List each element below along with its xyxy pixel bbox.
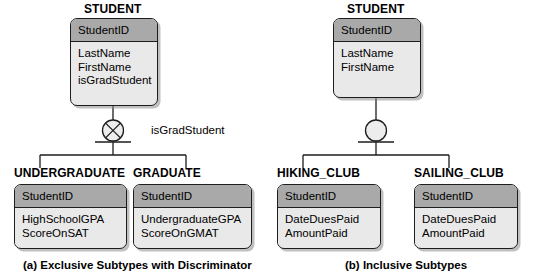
entity-attribute-list: HighSchoolGPA ScoreOnSAT [15,208,126,244]
entity-attribute: LastName [341,47,413,61]
entity-graduate[interactable]: StudentID UndergraduateGPA ScoreOnGMAT [133,184,252,249]
entity-student-b[interactable]: StudentID LastName FirstName [333,18,421,98]
inclusive-circle-b [366,120,387,141]
entity-attribute: ScoreOnGMAT [141,227,244,241]
entity-attribute-list: LastName FirstName isGradStudent [71,42,157,92]
entity-attribute-list: LastName FirstName [334,42,420,78]
entity-attribute: DateDuesPaid [422,213,510,227]
er-subtype-diagram: STUDENT StudentID LastName FirstName isG… [0,0,537,280]
entity-title-graduate: GRADUATE [133,166,201,180]
entity-key-attribute: StudentID [134,185,251,208]
entity-title-hiking-club: HIKING_CLUB [277,166,360,180]
entity-key-attribute: StudentID [71,19,157,42]
entity-attribute: DateDuesPaid [285,213,373,227]
entity-key-attribute: StudentID [15,185,126,208]
entity-attribute-list: DateDuesPaid AmountPaid [278,208,380,244]
entity-title-student-a: STUDENT [84,2,141,16]
entity-key-attribute: StudentID [415,185,517,208]
entity-attribute: HighSchoolGPA [22,213,119,227]
entity-student-a[interactable]: StudentID LastName FirstName isGradStude… [70,18,158,106]
exclusive-x-stroke-1 [106,123,121,138]
caption-panel-a: (a) Exclusive Subtypes with Discriminato… [23,259,252,271]
entity-attribute: AmountPaid [422,227,510,241]
entity-attribute: UndergraduateGPA [141,213,244,227]
entity-sailing-club[interactable]: StudentID DateDuesPaid AmountPaid [414,184,518,249]
entity-attribute: LastName [78,47,150,61]
entity-attribute: isGradStudent [78,74,150,88]
entity-key-attribute: StudentID [334,19,420,42]
entity-attribute: FirstName [78,61,150,75]
entity-title-undergraduate: UNDERGRADUATE [14,166,125,180]
exclusive-x-stroke-2 [106,123,121,138]
entity-title-student-b: STUDENT [347,2,404,16]
exclusive-circle-a [103,120,124,141]
entity-attribute-list: UndergraduateGPA ScoreOnGMAT [134,208,251,244]
entity-attribute-list: DateDuesPaid AmountPaid [415,208,517,244]
entity-attribute: AmountPaid [285,227,373,241]
entity-title-sailing-club: SAILING_CLUB [414,166,504,180]
entity-key-attribute: StudentID [278,185,380,208]
caption-panel-b: (b) Inclusive Subtypes [345,259,467,271]
discriminator-label-a: isGradStudent [151,124,225,136]
entity-hiking-club[interactable]: StudentID DateDuesPaid AmountPaid [277,184,381,249]
entity-attribute: FirstName [341,61,413,75]
entity-attribute: ScoreOnSAT [22,227,119,241]
entity-undergraduate[interactable]: StudentID HighSchoolGPA ScoreOnSAT [14,184,127,249]
